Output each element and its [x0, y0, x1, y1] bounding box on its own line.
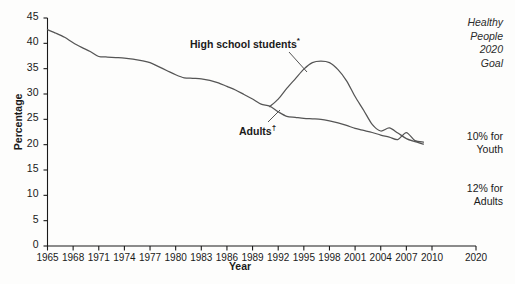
y-axis-ticks [44, 18, 48, 246]
leader-line-adults [268, 110, 280, 122]
goal-title-line: Goal [467, 57, 503, 71]
footnote-marker-asterisk: * [297, 36, 300, 45]
goal-youth-target: 10% forYouth [467, 130, 503, 157]
y-axis-tick-label: 35 [13, 62, 39, 74]
y-axis-tick-label: 25 [13, 112, 39, 124]
goal-title-line: 2020 [467, 43, 503, 57]
y-axis-tick-label: 15 [13, 163, 39, 175]
series-label-adults: Adults† [239, 124, 276, 137]
goal-adults-line: Adults [467, 195, 503, 208]
healthy-people-2020-goal-title: HealthyPeople2020Goal [467, 16, 503, 71]
series-label-adults-text: Adults [239, 125, 272, 137]
y-axis-tick-label: 20 [13, 138, 39, 150]
goal-title-line: People [467, 30, 503, 44]
goal-youth-line: 10% for [467, 130, 503, 143]
goal-title-line: Healthy [467, 16, 503, 30]
x-axis-tick-label: 2020 [459, 252, 493, 263]
goal-adults-target: 12% forAdults [467, 182, 503, 209]
series-label-high-school-students: High school students* [190, 37, 300, 50]
y-axis-tick-label: 5 [13, 214, 39, 226]
footnote-marker-dagger: † [272, 123, 276, 132]
goal-youth-line: Youth [467, 143, 503, 156]
x-axis-ticks [48, 246, 477, 251]
chart-figure: Percentage Year 051015202530354045 19651… [0, 0, 515, 284]
y-axis-tick-label: 0 [13, 239, 39, 251]
series-line-high-school-students [270, 61, 424, 144]
y-axis-tick-label: 40 [13, 36, 39, 48]
x-axis-tick-label: 2010 [415, 252, 449, 263]
goal-adults-line: 12% for [467, 182, 503, 195]
y-axis-tick-label: 30 [13, 87, 39, 99]
y-axis-tick-label: 10 [13, 188, 39, 200]
y-axis-tick-label: 45 [13, 11, 39, 23]
leader-line-high-school [289, 52, 307, 72]
series-label-high-school-text: High school students [190, 38, 297, 50]
